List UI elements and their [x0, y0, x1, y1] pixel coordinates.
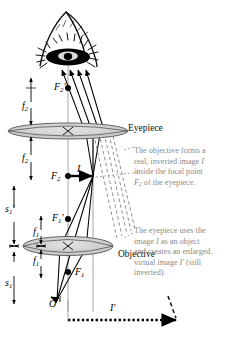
label-f2-upper: f2	[22, 100, 28, 113]
annotation-line: F2 of the eyepiece.	[134, 178, 228, 189]
label-s1-prime: s1′	[5, 203, 15, 216]
annotation-line: and creates an enlarged,	[134, 247, 228, 258]
label-s1: s1	[5, 277, 12, 290]
leader-annotation-eyepiece	[124, 233, 133, 238]
focal-point-F1	[65, 269, 71, 275]
label-F2-prime: F2′	[54, 81, 66, 94]
annotation-line: The objective forms a	[134, 146, 228, 157]
annotation-line: real, inverted image I	[134, 157, 228, 168]
label-O: O	[49, 298, 56, 310]
label-I-prime: I′	[110, 302, 116, 314]
annotation-line: virtual image I′ (still	[134, 258, 228, 269]
label-F2: F2	[51, 170, 61, 183]
label-f2-lower: f2	[22, 152, 28, 165]
leader-to-I-prime	[168, 296, 176, 318]
annotation-line: inside the focal point	[134, 167, 228, 178]
focal-point-F2	[65, 173, 71, 179]
annotation-line: The eyepiece uses the	[134, 226, 228, 237]
label-f1-lower: f1	[33, 255, 39, 268]
label-eyepiece: Eyepiece	[128, 123, 163, 134]
leader-annotation-objective	[124, 147, 134, 150]
annotation-line: inverted).	[134, 268, 228, 279]
annotation-eyepiece-note: The eyepiece uses the image I as an obje…	[134, 226, 228, 279]
label-F1: F1	[75, 266, 85, 279]
observer-eye-icon	[36, 12, 98, 68]
label-image-I: I	[77, 163, 80, 175]
annotation-objective-note: The objective forms a real, inverted ima…	[134, 146, 228, 188]
focal-point-F1-prime	[65, 216, 71, 222]
label-F1-prime: F1′	[52, 212, 64, 225]
label-f1-upper: f1	[33, 226, 39, 239]
annotation-line: image I as an object	[134, 237, 228, 248]
virtual-image-arrow-I-prime	[68, 300, 176, 322]
measure-s1-prime	[9, 186, 19, 247]
